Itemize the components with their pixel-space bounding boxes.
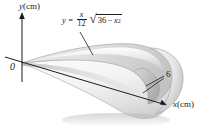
equation-fraction-denominator: 12 [77, 20, 87, 28]
radicand-constant: 36 [98, 15, 107, 25]
x-axis-label: x(cm) [173, 100, 194, 109]
equation-fraction-numerator: x [79, 11, 85, 19]
radicand-minus-sign: − [108, 15, 113, 25]
equation-equals-sign: = [68, 15, 73, 25]
equation-lhs: y [62, 15, 66, 25]
equation-radicand: 36 − x2 [96, 14, 122, 25]
surface-ground-shadow [62, 113, 170, 127]
solid-of-revolution-surface [22, 44, 183, 127]
equation-radical: √ 36 − x2 [90, 14, 122, 25]
x-axis-unit: (cm) [177, 99, 194, 109]
math-figure-solid-of-revolution: y = x 12 √ 36 − x2 y(cm) x(cm) 0 6 [0, 0, 207, 133]
y-axis-label: y(cm) [19, 2, 40, 11]
origin-label: 0 [10, 62, 15, 72]
y-axis-unit: (cm) [23, 1, 40, 11]
y-axis-arrowhead [19, 12, 25, 19]
x-intercept-label-6: 6 [166, 70, 171, 79]
equation-fraction: x 12 [77, 11, 87, 29]
curve-equation-label: y = x 12 √ 36 − x2 [62, 11, 122, 29]
